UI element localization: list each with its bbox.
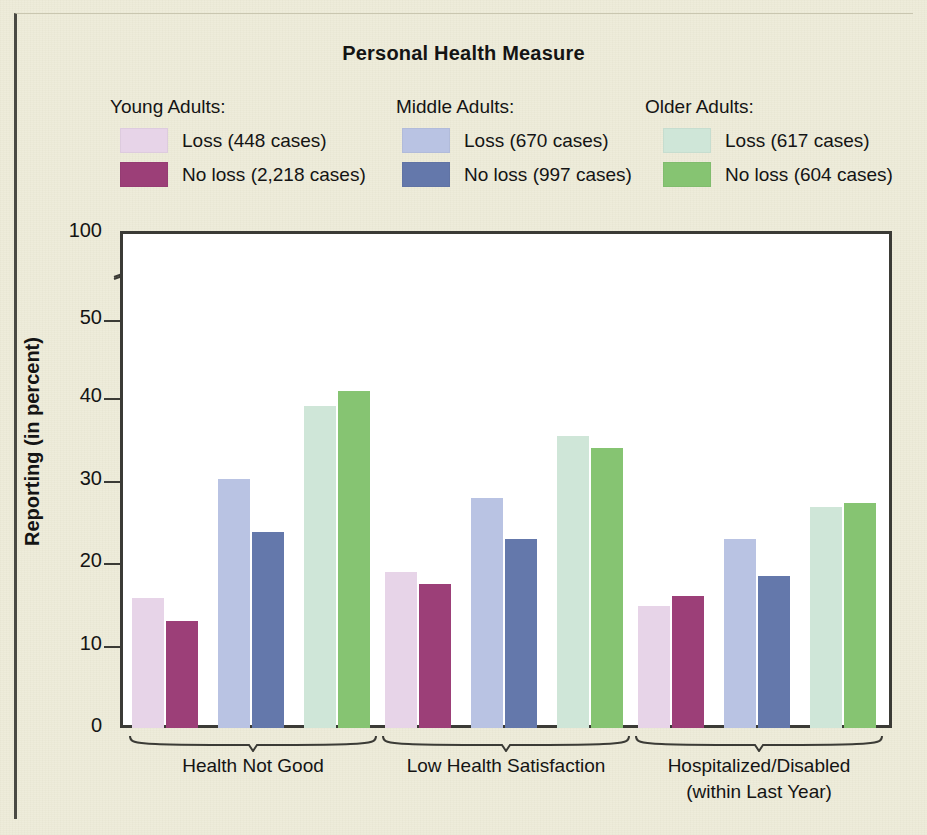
x-axis-bracket — [635, 735, 883, 752]
bar — [252, 532, 284, 728]
legend-heading-young-adults: Young Adults: — [110, 96, 366, 118]
bar-chart-figure: Personal Health Measure Young Adults: Lo… — [0, 0, 927, 835]
legend-item-young-no-loss[interactable]: No loss (2,218 cases) — [110, 159, 366, 190]
x-axis-category-label: Hospitalized/Disabled(within Last Year) — [605, 753, 913, 805]
y-tick-label-0: 0 — [32, 714, 102, 737]
bar — [218, 479, 250, 728]
legend-swatch-middle-no-loss — [402, 162, 450, 187]
bar — [844, 503, 876, 728]
bar — [304, 406, 336, 728]
legend-item-older-loss[interactable]: Loss (617 cases) — [645, 125, 893, 156]
bar — [810, 507, 842, 728]
legend-group-middle-adults: Middle Adults: Loss (670 cases) No loss … — [396, 96, 632, 193]
y-tick-label-40: 40 — [32, 384, 102, 407]
legend-heading-middle-adults: Middle Adults: — [396, 96, 632, 118]
legend-swatch-older-loss — [663, 128, 711, 153]
legend-group-young-adults: Young Adults: Loss (448 cases) No loss (… — [110, 96, 366, 193]
y-tick-mark-10 — [104, 646, 121, 648]
bar — [132, 598, 164, 728]
legend-label-middle-loss: Loss (670 cases) — [464, 130, 609, 152]
bar — [758, 576, 790, 728]
y-tick-mark-20 — [104, 563, 121, 565]
bar — [672, 596, 704, 728]
bars-container — [123, 234, 889, 728]
x-axis-bracket — [382, 735, 630, 752]
legend-label-young-loss: Loss (448 cases) — [182, 130, 327, 152]
legend-item-middle-no-loss[interactable]: No loss (997 cases) — [396, 159, 632, 190]
y-axis-tick-labels: 10050403020100 — [28, 0, 102, 835]
y-tick-label-30: 30 — [32, 467, 102, 490]
legend-item-young-loss[interactable]: Loss (448 cases) — [110, 125, 366, 156]
y-tick-mark-50 — [104, 320, 121, 322]
bar — [419, 584, 451, 728]
x-axis-bracket — [129, 735, 377, 752]
legend-label-older-loss: Loss (617 cases) — [725, 130, 870, 152]
bar — [591, 448, 623, 728]
chart-title: Personal Health Measure — [0, 42, 927, 65]
legend-heading-older-adults: Older Adults: — [645, 96, 893, 118]
legend-label-older-no-loss: No loss (604 cases) — [725, 164, 893, 186]
legend-swatch-older-no-loss — [663, 162, 711, 187]
bar — [166, 621, 198, 728]
legend-swatch-young-loss — [120, 128, 168, 153]
bar — [557, 436, 589, 728]
legend-item-older-no-loss[interactable]: No loss (604 cases) — [645, 159, 893, 190]
y-tick-label-100: 100 — [32, 219, 102, 242]
y-tick-label-10: 10 — [32, 632, 102, 655]
legend-label-young-no-loss: No loss (2,218 cases) — [182, 164, 366, 186]
y-tick-label-50: 50 — [32, 306, 102, 329]
legend-item-middle-loss[interactable]: Loss (670 cases) — [396, 125, 632, 156]
legend-group-older-adults: Older Adults: Loss (617 cases) No loss (… — [645, 96, 893, 193]
y-tick-mark-40 — [104, 398, 121, 400]
bar — [471, 498, 503, 728]
bar — [385, 572, 417, 728]
y-tick-label-20: 20 — [32, 549, 102, 572]
x-axis-category-label-line2: (within Last Year) — [605, 779, 913, 805]
bar — [724, 539, 756, 728]
bar — [505, 539, 537, 728]
legend-swatch-young-no-loss — [120, 162, 168, 187]
bar — [638, 606, 670, 728]
legend-swatch-middle-loss — [402, 128, 450, 153]
x-axis-category-label-line1: Hospitalized/Disabled — [605, 753, 913, 779]
legend-label-middle-no-loss: No loss (997 cases) — [464, 164, 632, 186]
y-tick-mark-30 — [104, 481, 121, 483]
bar — [338, 391, 370, 728]
